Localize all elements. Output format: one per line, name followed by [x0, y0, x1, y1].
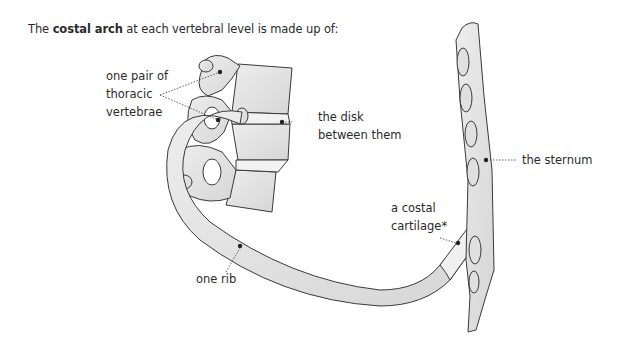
label-sternum: the sternum — [522, 151, 592, 169]
label-text: a costal — [391, 199, 447, 217]
label-text: between them — [318, 126, 401, 144]
label-text: thoracic — [106, 85, 168, 103]
middle-vertebral-body — [232, 124, 290, 160]
upper-vertebral-body — [232, 64, 292, 114]
vertebrae — [176, 55, 292, 212]
label-text: one pair of — [106, 67, 168, 85]
upper-facet — [199, 60, 213, 72]
label-text: the disk — [318, 108, 401, 126]
label-vertebrae: one pair of thoracic vertebrae — [106, 67, 168, 121]
label-costal-cartilage: a costal cartilage* — [391, 199, 447, 235]
label-text: cartilage* — [391, 217, 447, 235]
costal-arch-illustration — [0, 0, 620, 343]
label-disk: the disk between them — [318, 108, 401, 144]
lower-disk — [236, 160, 288, 172]
sternum — [456, 23, 494, 332]
label-text: vertebrae — [106, 103, 168, 121]
label-rib: one rib — [196, 270, 236, 288]
lower-foramen — [203, 159, 221, 185]
